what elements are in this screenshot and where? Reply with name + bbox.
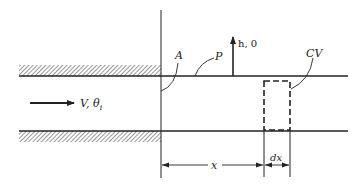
dimension-x-label: x (211, 159, 218, 172)
leader-a (161, 63, 178, 91)
leader-p (195, 58, 214, 76)
dimension-dx-label: dx (270, 152, 282, 163)
label-cv: CV (306, 47, 323, 60)
bottom-insulated-wall (19, 131, 161, 142)
channel-flow-diagram: V, θi h, 0 A P CV x dx (0, 0, 361, 188)
leader-cv (291, 58, 313, 89)
label-p: P (214, 50, 223, 63)
top-insulated-wall (19, 65, 161, 76)
inlet-flow-label: V, θi (80, 97, 103, 112)
control-volume-box (264, 81, 290, 130)
heat-flux-label: h, 0 (238, 38, 257, 49)
label-a: A (174, 49, 183, 62)
